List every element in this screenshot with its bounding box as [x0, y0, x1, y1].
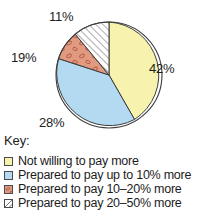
swatch-salmon-icon — [4, 185, 13, 194]
legend-item-10-to-20: Prepared to pay 10–20% more — [4, 182, 204, 196]
pie-label-11: 11% — [49, 9, 73, 24]
legend: Key: Not willing to pay more Prepared to… — [4, 134, 204, 210]
swatch-yellow-icon — [4, 157, 13, 166]
pie-chart-figure: 42% 28% 19% 11% Key: Not willing to pay … — [0, 0, 204, 216]
legend-item-20-to-50: Prepared to pay 20–50% more — [4, 196, 204, 210]
pie-label-42: 42% — [149, 61, 174, 76]
legend-title: Key: — [4, 134, 204, 148]
legend-label-10-to-20: Prepared to pay 10–20% more — [18, 182, 182, 196]
legend-label-20-to-50: Prepared to pay 20–50% more — [18, 196, 182, 210]
swatch-hatch-pattern-icon — [5, 200, 13, 208]
legend-item-up-to-10: Prepared to pay up to 10% more — [4, 168, 204, 182]
swatch-blue-icon — [4, 171, 13, 180]
pie-chart-plot: 42% 28% 19% 11% — [0, 0, 204, 140]
pie-label-28: 28% — [39, 115, 64, 130]
legend-label-not-willing: Not willing to pay more — [18, 154, 139, 168]
pie-label-19: 19% — [11, 50, 36, 65]
swatch-oval-pattern-icon — [5, 186, 13, 194]
legend-label-up-to-10: Prepared to pay up to 10% more — [18, 168, 191, 182]
legend-item-not-willing: Not willing to pay more — [4, 154, 204, 168]
swatch-hatched-icon — [4, 199, 13, 208]
